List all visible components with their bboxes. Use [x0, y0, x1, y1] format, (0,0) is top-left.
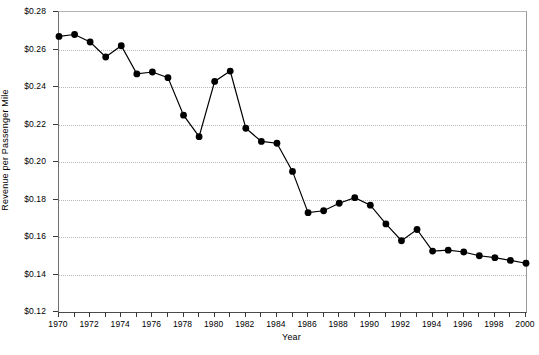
- series-markers: [56, 31, 530, 267]
- x-axis-tick-mark: [385, 312, 386, 317]
- revenue-per-passenger-mile-chart: Revenue per Passenger Mile $0.28$0.26$0.…: [0, 0, 539, 355]
- data-point: [491, 254, 498, 261]
- data-point: [274, 140, 281, 147]
- x-axis-tick-mark: [245, 312, 246, 317]
- y-axis-title-text: Revenue per Passenger Mile: [0, 89, 10, 210]
- data-point: [336, 200, 343, 207]
- y-axis-tick-label: $0.28: [0, 7, 46, 16]
- y-axis-tick-label: $0.22: [0, 120, 46, 129]
- y-axis-tick-label: $0.24: [0, 82, 46, 91]
- data-point: [523, 260, 530, 267]
- x-axis-tick-mark: [198, 312, 199, 317]
- data-point: [118, 42, 125, 49]
- x-axis-tick-mark: [260, 312, 261, 317]
- x-axis-tick-mark: [120, 312, 121, 317]
- data-point: [476, 252, 483, 259]
- data-point: [289, 168, 296, 175]
- x-axis-tick-mark: [292, 312, 293, 317]
- data-point: [242, 125, 249, 132]
- x-axis-tick-mark: [105, 312, 106, 317]
- data-point: [227, 68, 234, 75]
- y-axis-tick-label: $0.14: [0, 270, 46, 279]
- x-axis-tick-mark: [214, 312, 215, 317]
- data-point: [56, 33, 63, 40]
- data-point: [351, 194, 358, 201]
- x-axis-tick-mark: [183, 312, 184, 317]
- data-point: [460, 249, 467, 256]
- x-axis-tick-mark: [58, 312, 59, 317]
- x-axis-tick-mark: [369, 312, 370, 317]
- x-axis-tick-mark: [494, 312, 495, 317]
- y-axis-tick-label: $0.20: [0, 157, 46, 166]
- y-axis-tick-label: $0.12: [0, 307, 46, 316]
- data-point: [165, 74, 172, 81]
- x-axis-tick-mark: [525, 312, 526, 317]
- data-point: [258, 138, 265, 145]
- x-axis-tick-mark: [276, 312, 277, 317]
- data-point: [71, 31, 78, 38]
- x-axis-tick-mark: [167, 312, 168, 317]
- x-axis-tick-mark: [323, 312, 324, 317]
- x-axis-tick-mark: [89, 312, 90, 317]
- data-point: [429, 248, 436, 255]
- data-point: [133, 70, 140, 77]
- data-point: [414, 226, 421, 233]
- x-axis-tick-mark: [136, 312, 137, 317]
- x-axis-tick-mark: [478, 312, 479, 317]
- x-axis-tick-mark: [432, 312, 433, 317]
- x-axis-tick-mark: [509, 312, 510, 317]
- data-point: [102, 54, 109, 61]
- x-axis-tick-mark: [74, 312, 75, 317]
- y-axis-tick-label: $0.16: [0, 232, 46, 241]
- x-axis-title: Year: [58, 332, 525, 342]
- x-axis-tick-mark: [447, 312, 448, 317]
- data-point: [196, 133, 203, 140]
- data-point: [149, 69, 156, 76]
- plot-area: [58, 11, 527, 313]
- y-axis-tick-label: $0.26: [0, 45, 46, 54]
- x-axis-tick-mark: [416, 312, 417, 317]
- data-point: [211, 78, 218, 85]
- x-axis-tick-mark: [229, 312, 230, 317]
- data-point: [398, 237, 405, 244]
- data-point: [383, 220, 390, 227]
- x-axis-tick-label: 2000: [505, 320, 539, 329]
- data-series-line: [59, 12, 526, 312]
- data-point: [305, 209, 312, 216]
- x-axis-tick-mark: [338, 312, 339, 317]
- x-axis-tick-mark: [307, 312, 308, 317]
- data-point: [87, 39, 94, 46]
- data-point: [507, 257, 514, 264]
- data-point: [320, 207, 327, 214]
- data-point: [367, 202, 374, 209]
- y-axis-tick-label: $0.18: [0, 195, 46, 204]
- series-polyline: [59, 35, 526, 264]
- x-axis-tick-mark: [151, 312, 152, 317]
- data-point: [445, 247, 452, 254]
- x-axis-tick-mark: [463, 312, 464, 317]
- x-axis-tick-mark: [400, 312, 401, 317]
- x-axis-tick-mark: [354, 312, 355, 317]
- data-point: [180, 112, 187, 119]
